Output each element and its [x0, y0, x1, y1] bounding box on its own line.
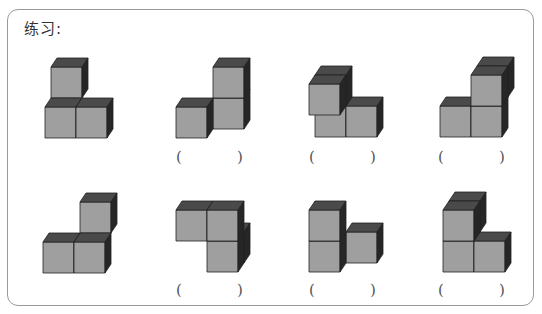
cube-figure-8 — [443, 192, 511, 272]
cube — [346, 97, 383, 137]
answer-blank-4[interactable] — [188, 281, 235, 299]
answer-blank-close-paren: ) — [370, 148, 376, 166]
cube — [474, 232, 511, 272]
cube-figure-5 — [43, 193, 117, 273]
cube-figure-3 — [309, 66, 383, 137]
cube-figure-4 — [440, 57, 514, 137]
answer-blank-3[interactable] — [450, 148, 497, 166]
cube — [346, 223, 383, 263]
cube — [80, 193, 117, 233]
answer-blank-open-paren: ( — [438, 281, 444, 299]
cube — [207, 201, 244, 241]
cube-figure-6 — [176, 201, 250, 272]
answer-blank-5[interactable] — [321, 281, 368, 299]
cube — [213, 58, 250, 98]
cube — [74, 233, 111, 273]
cube-figure-1 — [45, 58, 113, 138]
cube — [176, 98, 213, 138]
answer-blank-close-paren: ) — [237, 281, 243, 299]
answer-blank-close-paren: ) — [237, 148, 243, 166]
cube — [76, 98, 113, 138]
cube-figure-7 — [309, 201, 383, 272]
answer-blank-open-paren: ( — [309, 148, 315, 166]
answer-blank-6[interactable] — [450, 281, 497, 299]
answer-blank-open-paren: ( — [176, 148, 182, 166]
cube-figure-2 — [176, 58, 250, 138]
answer-blank-open-paren: ( — [176, 281, 182, 299]
cube — [443, 201, 480, 241]
answer-blank-close-paren: ) — [499, 281, 505, 299]
cube — [471, 66, 508, 106]
answer-blank-open-paren: ( — [309, 281, 315, 299]
cube — [309, 75, 346, 115]
answer-blank-close-paren: ) — [370, 281, 376, 299]
answer-blank-1[interactable] — [188, 148, 235, 166]
answer-blank-close-paren: ) — [499, 148, 505, 166]
answer-blank-open-paren: ( — [438, 148, 444, 166]
answer-blank-2[interactable] — [321, 148, 368, 166]
cube — [309, 201, 346, 241]
cube — [51, 58, 88, 98]
